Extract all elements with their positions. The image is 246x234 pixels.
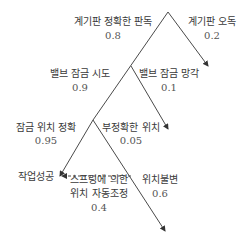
l1-right-label: 계기판 오독	[182, 16, 242, 28]
event-tree-diagram: 계기판 정확한 판독 0.8 계기판 오독 0.2 밸브 잠금 시도 0.9 밸…	[0, 0, 246, 234]
l1-left-label: 계기판 정확한 판독	[66, 16, 160, 28]
branch-line-l1-left	[93, 12, 168, 120]
l3-right-prob: 0.05	[97, 135, 165, 147]
l4-right-label: 위치불변	[138, 174, 182, 186]
l3-right-label: 부정확한 위치	[97, 122, 165, 134]
l3-left-label: 잠금 위치 정확	[10, 122, 82, 134]
l4-left-label-line1: 스프링에 의한	[66, 174, 132, 186]
l2-left-label: 밸브 잠금 시도	[46, 68, 114, 80]
l4-right-prob: 0.6	[138, 188, 182, 200]
l1-left-prob: 0.8	[66, 30, 160, 42]
l4-left-prob: 0.4	[66, 202, 132, 214]
l4-left-label-line2: 위치 자동조정	[66, 188, 132, 200]
outcome-success-label: 작업성공	[14, 171, 58, 183]
l2-right-label: 밸브 잠금 망각	[134, 68, 204, 80]
l2-right-prob: 0.1	[134, 82, 204, 94]
l2-left-prob: 0.9	[46, 82, 114, 94]
l1-right-prob: 0.2	[182, 30, 242, 42]
l3-left-prob: 0.95	[10, 135, 82, 147]
